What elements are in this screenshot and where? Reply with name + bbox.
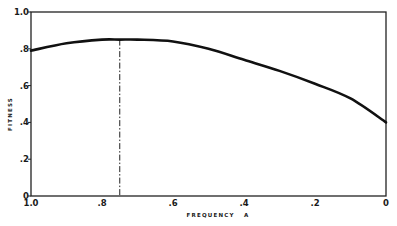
y-axis-label: FITNESS <box>7 97 13 131</box>
y-tick-label: .6 <box>20 81 29 91</box>
x-tick-label: .4 <box>239 198 248 208</box>
x-tick-label: 1.0 <box>23 198 38 208</box>
y-tick-label: .8 <box>20 44 29 54</box>
y-tick-label: .2 <box>20 154 29 164</box>
fitness-frequency-chart: 0.2.4.6.81.0 1.0.8.6.4.20 FITNESS FREQUE… <box>0 0 397 226</box>
plot-frame <box>31 12 386 196</box>
x-tick-label: .2 <box>310 198 319 208</box>
fitness-curve <box>31 39 386 122</box>
x-axis-ticks: 1.0.8.6.4.20 <box>23 198 389 208</box>
x-tick-label: .8 <box>97 198 106 208</box>
x-tick-label: 0 <box>383 198 389 208</box>
y-tick-label: 1.0 <box>14 7 29 17</box>
y-axis-ticks: 0.2.4.6.81.0 <box>14 7 31 201</box>
x-tick-label: .6 <box>168 198 177 208</box>
y-tick-label: .4 <box>20 117 29 127</box>
x-axis-label: FREQUENCY A <box>187 212 250 218</box>
